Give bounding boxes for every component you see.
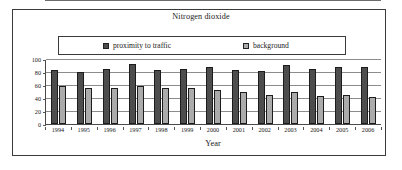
- x-tick-mark: [174, 127, 175, 130]
- bar-background-2005[interactable]: [343, 95, 350, 124]
- x-tick-mark: [97, 127, 98, 130]
- x-tick-mark: [252, 127, 253, 130]
- y-axis: 020406080100: [22, 60, 43, 125]
- x-tick-mark: [226, 127, 227, 130]
- plot-top-rule: [45, 0, 381, 1]
- x-tick-label: 1997: [123, 127, 149, 139]
- bar-proximity-to-traffic-2004[interactable]: [309, 69, 316, 124]
- y-tick-label: 40: [35, 96, 41, 102]
- bar-group: [304, 60, 330, 124]
- x-axis: 1994199519961997199819992000200120022003…: [45, 127, 381, 139]
- bar-group: [355, 60, 381, 124]
- bar-background-2004[interactable]: [317, 96, 324, 124]
- bar-group: [123, 60, 149, 124]
- x-tick-label: 2000: [200, 127, 226, 139]
- x-tick-mark: [200, 127, 201, 130]
- x-tick-label: 1996: [97, 127, 123, 139]
- bar-group: [329, 60, 355, 124]
- bar-background-2001[interactable]: [240, 92, 247, 125]
- bar-background-1996[interactable]: [111, 88, 118, 124]
- bar-background-2006[interactable]: [369, 97, 376, 124]
- bar-background-2000[interactable]: [214, 90, 221, 124]
- x-tick-label: 2003: [278, 127, 304, 139]
- x-tick-mark: [45, 127, 46, 130]
- bars-layer: [46, 60, 381, 124]
- bar-background-1995[interactable]: [85, 88, 92, 124]
- bar-group: [175, 60, 201, 124]
- bar-proximity-to-traffic-2002[interactable]: [258, 71, 265, 124]
- bar-proximity-to-traffic-2003[interactable]: [283, 65, 290, 124]
- bar-group: [226, 60, 252, 124]
- x-tick-label: 1995: [71, 127, 97, 139]
- x-tick-label: 2006: [355, 127, 381, 139]
- bar-background-1999[interactable]: [188, 88, 195, 124]
- bar-background-2003[interactable]: [291, 92, 298, 125]
- x-tick-mark: [381, 127, 382, 130]
- bar-group: [46, 60, 72, 124]
- bar-background-1994[interactable]: [59, 86, 66, 124]
- bar-group: [278, 60, 304, 124]
- x-tick-label: 1994: [45, 127, 71, 139]
- x-tick-label: 2004: [303, 127, 329, 139]
- x-tick-mark: [148, 127, 149, 130]
- x-tick-label: 1998: [148, 127, 174, 139]
- bar-proximity-to-traffic-1997[interactable]: [129, 64, 136, 124]
- bar-group: [98, 60, 124, 124]
- x-axis-title: Year: [45, 139, 381, 148]
- bar-proximity-to-traffic-2001[interactable]: [232, 70, 239, 124]
- bar-proximity-to-traffic-2005[interactable]: [335, 67, 342, 124]
- bar-group: [72, 60, 98, 124]
- x-tick-mark: [329, 127, 330, 130]
- plot-wrapper: 020406080100 199419951996199719981999200…: [0, 0, 402, 170]
- x-tick-mark: [355, 127, 356, 130]
- bar-background-1998[interactable]: [162, 88, 169, 124]
- bar-proximity-to-traffic-1998[interactable]: [154, 70, 161, 124]
- bar-group: [201, 60, 227, 124]
- bar-proximity-to-traffic-1999[interactable]: [180, 69, 187, 124]
- bar-background-1997[interactable]: [137, 86, 144, 124]
- page-canvas: Nitrogen dioxide proximity to traffic ba…: [0, 0, 402, 170]
- x-tick-label: 2001: [226, 127, 252, 139]
- x-tick-mark: [71, 127, 72, 130]
- bar-group: [252, 60, 278, 124]
- bar-proximity-to-traffic-1994[interactable]: [51, 70, 58, 124]
- x-tick-mark: [303, 127, 304, 130]
- y-tick-label: 80: [35, 70, 41, 76]
- y-tick-label: 0: [38, 122, 41, 128]
- x-tick-mark: [278, 127, 279, 130]
- plot-area: [45, 60, 381, 125]
- bar-proximity-to-traffic-1995[interactable]: [77, 72, 84, 124]
- x-tick-label: 2005: [329, 127, 355, 139]
- bar-background-2002[interactable]: [266, 95, 273, 124]
- x-tick-label: 1999: [174, 127, 200, 139]
- y-tick-label: 100: [32, 57, 41, 63]
- y-tick-mark: [43, 125, 46, 126]
- y-tick-label: 60: [35, 83, 41, 89]
- bar-proximity-to-traffic-1996[interactable]: [103, 69, 110, 124]
- bar-proximity-to-traffic-2006[interactable]: [361, 67, 368, 124]
- y-tick-label: 20: [35, 109, 41, 115]
- x-tick-label: 2002: [252, 127, 278, 139]
- bar-proximity-to-traffic-2000[interactable]: [206, 67, 213, 124]
- x-tick-mark: [123, 127, 124, 130]
- bar-group: [149, 60, 175, 124]
